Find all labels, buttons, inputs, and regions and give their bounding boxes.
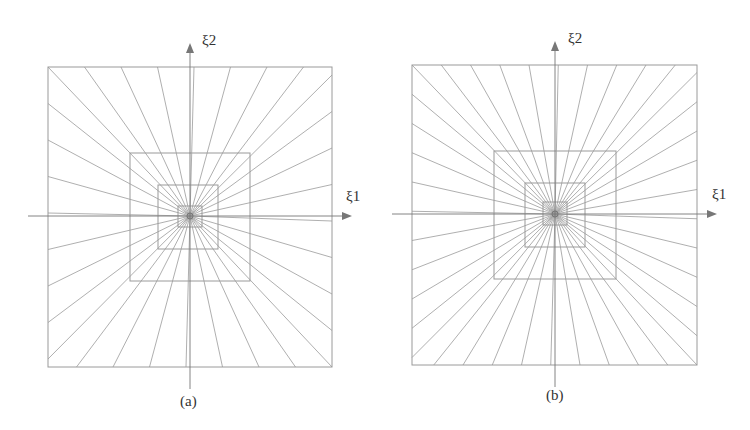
arrow-up-icon — [186, 43, 194, 53]
panel-a-axis-x-label: ξ1 — [346, 188, 360, 205]
arrow-up-icon — [551, 41, 559, 51]
panel-a-caption: (a) — [180, 393, 197, 410]
arrow-right-icon — [342, 212, 352, 220]
arrow-right-icon — [707, 210, 717, 218]
panel-b-axis-x-label: ξ1 — [712, 186, 726, 203]
panel-b-caption: (b) — [546, 387, 564, 404]
panel-b-axis-y-label: ξ2 — [568, 30, 582, 47]
panel-a-axis-y-label: ξ2 — [202, 32, 216, 49]
figure-canvas — [0, 0, 750, 430]
